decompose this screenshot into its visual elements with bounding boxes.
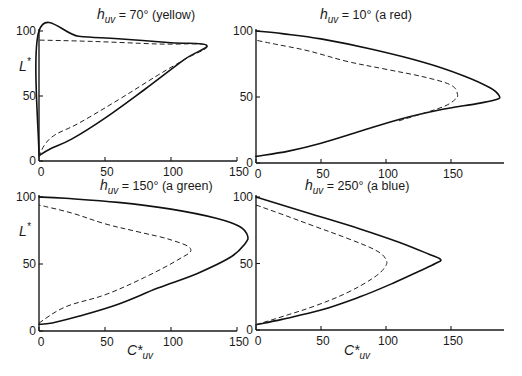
- x-tick-label: 100: [163, 335, 183, 349]
- x-tick-label: 150: [229, 335, 249, 349]
- panel-green: 050100050100150: [16, 190, 249, 349]
- x-tick-label: 150: [443, 167, 463, 181]
- panel-yellow: 050100050100150: [16, 22, 249, 179]
- x-tick-label: 0: [255, 167, 262, 181]
- solid-gamut-curve: [256, 31, 500, 156]
- y-tick-label: 0: [246, 323, 253, 337]
- x-tick-label: 50: [100, 335, 114, 349]
- x-tick-label: 50: [316, 334, 330, 348]
- panel-blue: 050100050100150: [233, 190, 504, 348]
- x-tick-label: 0: [255, 334, 262, 348]
- y-tick-label: 0: [29, 154, 36, 168]
- gamut-plots-canvas: 0501000501001500501000501001500501000501…: [0, 0, 522, 376]
- dashed-gamut-curve: [256, 40, 458, 121]
- x-tick-label: 50: [316, 167, 330, 181]
- y-tick-label: 100: [233, 190, 253, 204]
- y-tick-label: 100: [233, 24, 253, 38]
- solid-gamut-curve: [256, 197, 441, 325]
- x-tick-label: 100: [378, 167, 398, 181]
- gamut-figure: 0501000501001500501000501001500501000501…: [0, 0, 522, 376]
- y-tick-label: 0: [246, 156, 253, 170]
- x-tick-label: 0: [38, 165, 45, 179]
- dashed-gamut-curve: [256, 205, 387, 325]
- x-tick-label: 150: [443, 334, 463, 348]
- y-tick-label: 100: [16, 190, 36, 204]
- panel-red: 050100050100150: [233, 24, 504, 181]
- x-tick-label: 100: [163, 165, 183, 179]
- y-tick-label: 50: [23, 257, 37, 271]
- dashed-gamut-curve: [39, 40, 207, 157]
- y-tick-label: 50: [23, 89, 37, 103]
- y-tick-label: 100: [16, 24, 36, 38]
- y-tick-label: 0: [29, 324, 36, 338]
- x-tick-label: 100: [378, 334, 398, 348]
- y-tick-label: 50: [240, 90, 254, 104]
- x-tick-label: 0: [38, 335, 45, 349]
- x-tick-label: 50: [100, 165, 114, 179]
- y-tick-label: 50: [240, 257, 254, 271]
